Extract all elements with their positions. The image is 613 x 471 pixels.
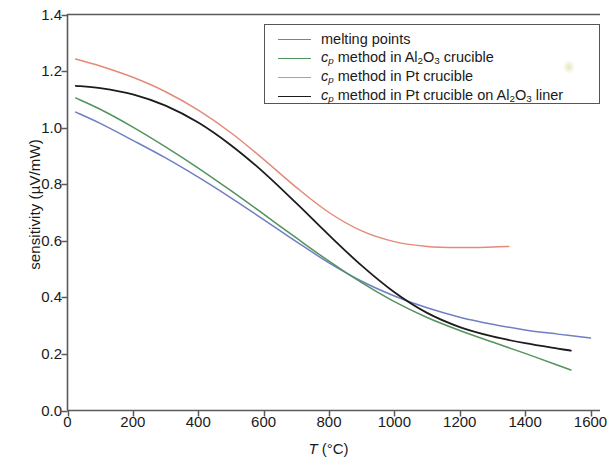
x-axis-title-symbol: T [308,440,317,457]
legend-item: cp method in Al2O3 crucible [278,49,600,67]
chart-figure: sensitivity (µV/mW) 0.00.20.40.60.81.01.… [0,0,613,471]
legend-item-label: cp method in Pt crucible on Al2O3 liner [321,88,563,104]
x-tick-label: 1600 [561,414,613,429]
legend-color-swatch [278,96,311,97]
legend: melting pointscp method in Al2O3 crucibl… [264,24,600,104]
legend-color-swatch [278,58,311,59]
data-series-line [76,112,591,338]
legend-color-swatch [278,39,311,40]
x-tick-label: 1000 [364,414,424,429]
x-tick-label: 1400 [495,414,555,429]
legend-item: melting points [278,30,600,48]
x-tick-label: 600 [234,414,294,429]
x-tick-label: 1200 [430,414,490,429]
data-series-group [76,59,591,370]
legend-item: cp method in Pt crucible [278,68,600,86]
x-tick-label: 400 [168,414,228,429]
scan-artifact [563,60,575,74]
x-axis-title-unit: (°C) [322,440,349,457]
x-tick-label: 200 [103,414,163,429]
legend-item-label: cp method in Al2O3 crucible [321,50,494,66]
x-tick-label: 0 [38,414,98,429]
legend-item: cp method in Pt crucible on Al2O3 liner [278,87,600,105]
data-series-line [76,86,571,351]
legend-item-label: melting points [321,32,410,47]
legend-item-label: cp method in Pt crucible [321,69,473,85]
legend-color-swatch [278,77,311,78]
x-axis-title: T (°C) [67,440,590,457]
x-tick-label: 800 [299,414,359,429]
data-series-line [76,98,571,370]
